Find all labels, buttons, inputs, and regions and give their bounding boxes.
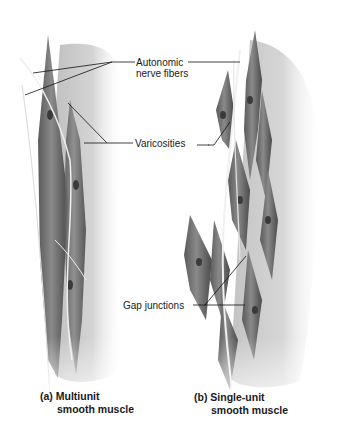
caption-multiunit: (a) Multiunit smooth muscle xyxy=(40,390,134,416)
caption-a-line2: smooth muscle xyxy=(40,403,134,415)
label-varicosities: Varicosities xyxy=(135,138,185,149)
label-gap-junctions: Gap junctions xyxy=(123,300,184,311)
caption-single-unit: (b) Single-unit smooth muscle xyxy=(194,391,288,417)
caption-a-line1: (a) Multiunit xyxy=(40,390,99,402)
label-autonomic-line1: Autonomic xyxy=(136,57,183,68)
label-autonomic-nerve-fibers: Autonomic nerve fibers xyxy=(136,57,188,79)
caption-b-line2: smooth muscle xyxy=(194,404,288,416)
caption-b-line1: (b) Single-unit xyxy=(194,391,265,403)
smooth-muscle-figure: Autonomic nerve fibers Varicosities Gap … xyxy=(0,0,338,421)
label-autonomic-line2: nerve fibers xyxy=(136,68,188,79)
